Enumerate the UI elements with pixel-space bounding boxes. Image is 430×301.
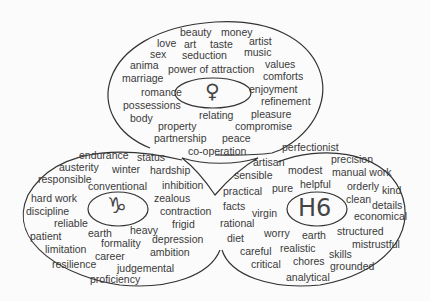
word: pleasure	[251, 109, 291, 120]
word: judgemental	[117, 263, 174, 274]
capricorn-symbol-icon: ♑	[107, 195, 127, 217]
word: responsible	[38, 174, 92, 185]
word: peace	[222, 133, 251, 144]
word: structured	[337, 226, 384, 237]
word: discipline	[26, 206, 69, 217]
word: formality	[101, 238, 141, 249]
venus-symbol-icon: ♀	[205, 81, 220, 101]
word: romance	[141, 87, 182, 98]
word: grounded	[330, 261, 374, 272]
word: earth	[302, 230, 326, 241]
word: endurance	[79, 150, 129, 161]
word: career	[95, 251, 125, 262]
word: patient	[30, 231, 62, 242]
word: marriage	[122, 73, 163, 84]
word: partnership	[154, 133, 207, 144]
word: seduction	[182, 50, 227, 61]
word: inhibition	[162, 180, 203, 191]
word: pure	[272, 183, 293, 194]
word: contraction	[160, 206, 211, 217]
word: status	[137, 152, 165, 163]
word: refinement	[261, 96, 311, 107]
word: sex	[150, 49, 166, 60]
word: resilience	[52, 259, 96, 270]
word: money	[221, 27, 253, 38]
word: love	[157, 38, 176, 49]
word: ambition	[150, 247, 190, 258]
word: limitation	[45, 244, 86, 255]
word: realistic	[280, 243, 316, 254]
word: helpful	[300, 179, 331, 190]
word: facts	[223, 201, 245, 212]
word: artisan	[253, 157, 285, 168]
word: precision	[331, 154, 373, 165]
word: manual work	[332, 167, 392, 178]
word: diet	[227, 233, 244, 244]
word: values	[265, 59, 295, 70]
word: kind	[382, 185, 401, 196]
word: details	[372, 200, 402, 211]
word: virgin	[252, 208, 277, 219]
word: artist	[249, 36, 272, 47]
word: beauty	[180, 27, 212, 38]
word: taste	[210, 39, 233, 50]
word: property	[158, 121, 197, 132]
word: modest	[288, 165, 322, 176]
word: austerity	[59, 162, 99, 173]
word: skills	[329, 249, 352, 260]
word: clean	[346, 194, 371, 205]
word: comforts	[263, 71, 303, 82]
word: art	[184, 39, 196, 50]
word: chores	[293, 256, 325, 267]
word: compromise	[235, 121, 292, 132]
word: relating	[199, 110, 233, 121]
word: hardship	[150, 165, 190, 176]
word: power of attraction	[168, 64, 254, 75]
word: conventional	[88, 181, 147, 192]
word: enjoyment	[249, 84, 297, 95]
word: careful	[240, 246, 272, 257]
word: mistrustful	[352, 239, 400, 250]
word: body	[130, 113, 153, 124]
word: sensible	[234, 170, 273, 181]
word: perfectionist	[282, 142, 339, 153]
word: music	[244, 47, 271, 58]
word: zealous	[154, 193, 190, 204]
word: winter	[112, 164, 140, 175]
word: practical	[223, 186, 262, 197]
word: orderly	[347, 181, 379, 192]
word: co-operation	[188, 146, 246, 157]
word: reliable	[54, 218, 88, 229]
word: rational	[220, 218, 254, 229]
word: analytical	[286, 272, 330, 283]
word: hard work	[31, 193, 77, 204]
sixth-house-label: H6	[298, 196, 331, 220]
word: anima	[130, 60, 159, 71]
word: depression	[152, 234, 203, 245]
word: economical	[354, 211, 407, 222]
word: critical	[251, 259, 281, 270]
word: worry	[264, 228, 290, 239]
word: proficiency	[90, 274, 140, 285]
word: possessions	[123, 100, 181, 111]
word: frigid	[172, 219, 195, 230]
